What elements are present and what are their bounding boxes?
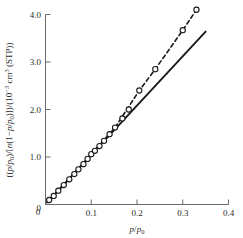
- data-point-marker: [97, 143, 102, 148]
- data-point-marker: [76, 167, 81, 172]
- data-point-marker: [51, 193, 56, 198]
- x-tick-label-3: 0.3: [177, 208, 189, 218]
- data-point-marker: [126, 107, 131, 112]
- data-point-marker: [61, 182, 66, 187]
- y-title-units: cm: [4, 73, 14, 86]
- y-tick-label-1: 1.0: [30, 152, 42, 162]
- data-point-marker: [67, 177, 72, 182]
- y-axis-title: ((p/p0)/[n(1−p/p0)])/(10−3 cm3 (STP)): [3, 43, 15, 178]
- y-title-tail: (STP)): [4, 43, 14, 70]
- x-tick-label-1: 0.1: [86, 208, 97, 218]
- y-title-exp: −3: [3, 86, 10, 93]
- data-point-marker: [112, 125, 117, 130]
- y-tick-label-4: 4.0: [30, 10, 42, 20]
- data-point-marker: [120, 116, 125, 121]
- data-point-marker: [180, 28, 185, 33]
- chart-canvas: 0 0.1 0.2 0.3 0.4 0 1.0 2.0 3.0 4.0 p/p0…: [0, 0, 243, 238]
- y-tick-label-3: 3.0: [30, 57, 42, 67]
- data-point-marker: [72, 172, 77, 177]
- y-tick-label-2: 2.0: [30, 105, 42, 115]
- data-point-marker: [81, 162, 86, 167]
- x-tick-label-4: 0.4: [223, 208, 235, 218]
- y-title-paren-open: (1−: [4, 131, 14, 144]
- data-point-marker: [101, 138, 106, 143]
- data-point-marker: [137, 88, 142, 93]
- y-title-paren-close: )])/(10: [4, 92, 14, 116]
- data-point-marker: [47, 197, 52, 202]
- data-point-marker: [92, 148, 97, 153]
- data-point-marker: [107, 132, 112, 137]
- data-point-marker: [56, 188, 61, 193]
- bet-plot-figure: 0 0.1 0.2 0.3 0.4 0 1.0 2.0 3.0 4.0 p/p0…: [0, 0, 243, 238]
- y-tick-label-0: 0: [37, 203, 42, 213]
- data-point-marker: [153, 67, 158, 72]
- x-title-sub: 0: [141, 228, 144, 235]
- svg-text:((p/p0)/[n(1−p/p0)])/(10−3 cm3: ((p/p0)/[n(1−p/p0)])/(10−3 cm3 (STP)): [3, 43, 15, 178]
- x-tick-label-2: 0.2: [131, 208, 142, 218]
- data-point-marker: [194, 7, 199, 12]
- data-point-marker: [85, 156, 90, 161]
- y-title-mid: )/[: [4, 148, 14, 157]
